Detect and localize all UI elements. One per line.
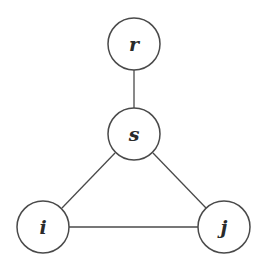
node-r: r <box>108 18 160 70</box>
graph-diagram: r s i j <box>0 0 267 270</box>
edge-s-j <box>153 153 206 208</box>
node-s-label: s <box>128 123 140 145</box>
node-i-label: i <box>39 216 46 238</box>
node-j: j <box>198 201 250 253</box>
node-s: s <box>108 108 160 160</box>
edge-s-i <box>62 153 115 208</box>
node-i: i <box>17 201 69 253</box>
